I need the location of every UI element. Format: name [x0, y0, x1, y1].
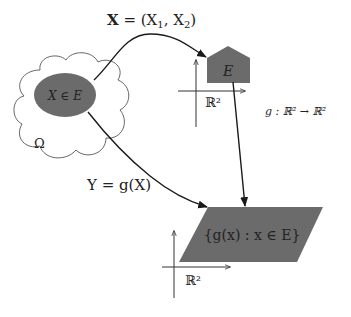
- function-label: g : ℝ² → ℝ²: [265, 105, 326, 118]
- mapping-arrow-g: [233, 82, 245, 206]
- diagram-canvas: X ∈ E Ω X = (X1, X2) E ℝ² g : ℝ² → ℝ² Y …: [0, 0, 351, 317]
- sample-space-label: Ω: [34, 136, 45, 151]
- top-arrow-label: X = (X1, X2): [107, 11, 196, 30]
- set-E-label: E: [222, 63, 233, 79]
- space-label-bottom: ℝ²: [185, 273, 201, 288]
- image-set-label: {g(x) : x ∈ E}: [204, 227, 301, 243]
- space-label-top: ℝ²: [205, 95, 221, 110]
- bottom-arrow-label: Y = g(X): [86, 176, 151, 194]
- random-element-label: X ∈ E: [47, 89, 82, 103]
